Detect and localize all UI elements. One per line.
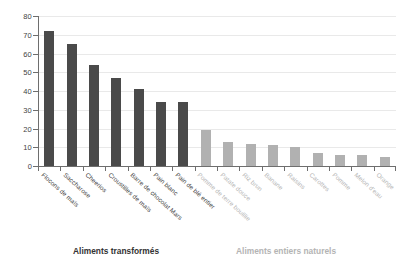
y-axis-tick-label: 70	[23, 30, 32, 39]
bar	[290, 15, 300, 166]
legend-label-natural: Aliments entiers naturels	[236, 246, 336, 256]
bar-fill	[156, 102, 166, 166]
x-axis-category-label: Pain de blé entier	[174, 171, 216, 210]
bar-fill	[380, 157, 390, 166]
bar-fill	[201, 130, 211, 166]
bar-fill	[223, 142, 233, 166]
y-axis-labels: 01020304050607080	[0, 16, 34, 167]
bar	[223, 15, 233, 166]
bar	[335, 15, 345, 166]
bar	[357, 15, 367, 166]
plot-area	[38, 16, 396, 167]
y-axis-tick-label: 60	[23, 49, 32, 58]
bar	[111, 15, 121, 166]
bar	[313, 15, 323, 166]
bar	[44, 15, 54, 166]
bar	[178, 15, 188, 166]
bar-fill	[44, 31, 54, 166]
bar-fill	[335, 155, 345, 166]
bar-fill	[313, 153, 323, 166]
bar-fill	[89, 65, 99, 166]
bar-fill	[357, 155, 367, 166]
bar	[156, 15, 166, 166]
y-axis-tick-label: 0	[28, 162, 32, 171]
bar-fill	[178, 102, 188, 166]
bar	[89, 15, 99, 166]
bar-chart: 01020304050607080 Flocons de maïsSacchar…	[0, 0, 406, 272]
bar	[246, 15, 256, 166]
legend-label-processed: Aliments transformés	[73, 246, 159, 256]
bar-fill	[268, 145, 278, 166]
y-axis-tick-label: 50	[23, 68, 32, 77]
bar	[201, 15, 211, 166]
x-axis-category-label: Orange	[376, 171, 397, 191]
x-axis-labels: Flocons de maïsSaccharoseCheeriosCrousti…	[38, 171, 406, 231]
bar	[67, 15, 77, 166]
bar	[268, 15, 278, 166]
y-axis-tick-label: 40	[23, 87, 32, 96]
x-axis-category-label: Carottes	[309, 171, 332, 193]
bar-fill	[67, 44, 77, 166]
bar	[134, 15, 144, 166]
bar-fill	[134, 89, 144, 166]
x-axis-category-label: Banane	[264, 171, 285, 191]
x-axis-category-label: Pomme	[331, 171, 352, 191]
y-axis-tick-label: 10	[23, 143, 32, 152]
x-axis-category-label: Raisins	[286, 171, 307, 190]
bar-fill	[246, 144, 256, 167]
bar-group	[38, 16, 396, 167]
y-axis-tick-label: 30	[23, 105, 32, 114]
chart-legend: Aliments transformés Aliments entiers na…	[0, 246, 406, 266]
bar-fill	[290, 147, 300, 166]
bar	[380, 15, 390, 166]
bar-fill	[111, 78, 121, 166]
y-axis-tick-label: 20	[23, 124, 32, 133]
y-axis-tick-label: 80	[23, 12, 32, 21]
